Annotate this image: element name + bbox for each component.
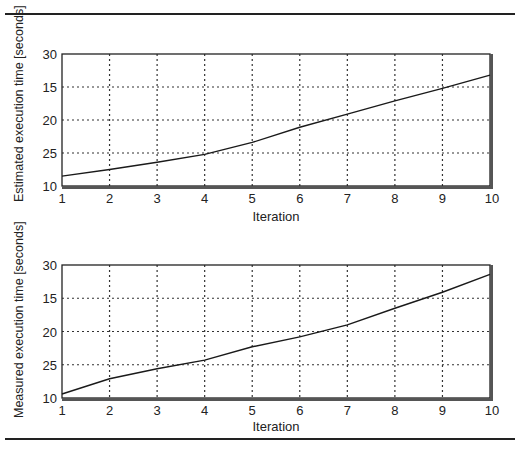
- measured-time-chart: Measured execution time [seconds] Iterat…: [0, 0, 527, 453]
- x-tick-label: 7: [344, 403, 351, 418]
- y-tick-label: 10: [33, 391, 57, 406]
- x-tick-label: 1: [58, 403, 65, 418]
- x-tick-label: 4: [201, 403, 208, 418]
- y-tick-label: 20: [33, 324, 57, 339]
- y-tick-label: 15: [33, 291, 57, 306]
- x-tick-label: 6: [296, 403, 303, 418]
- x-tick-label: 8: [391, 403, 398, 418]
- frame-shadow: [62, 265, 492, 400]
- x-tick-label: 5: [249, 403, 256, 418]
- y-tick-label: 30: [33, 258, 57, 273]
- plot-area: [0, 0, 527, 453]
- y-tick-label: 25: [33, 357, 57, 372]
- x-tick-label: 2: [106, 403, 113, 418]
- x-tick-label: 3: [153, 403, 160, 418]
- plot-frame: [62, 265, 490, 398]
- x-tick-label: 9: [439, 403, 446, 418]
- data-line: [62, 274, 490, 394]
- x-tick-label: 10: [485, 403, 499, 418]
